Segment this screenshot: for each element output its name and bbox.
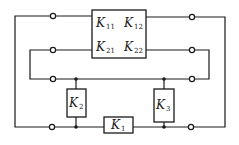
terminal-circle [189, 47, 194, 52]
terminal-circle [50, 47, 55, 52]
two-port-block: K11 K12 K21 K22 [92, 10, 146, 58]
terminal-circle [50, 13, 55, 18]
terminals-left [49, 13, 55, 129]
junction-dot [74, 125, 78, 129]
terminal-circle [50, 76, 55, 81]
terminal-circle [188, 124, 193, 129]
circuit-diagram: K11 K12 K21 K22 K2 K3 K1 [0, 0, 239, 145]
terminal-circle [189, 14, 194, 19]
element-k3: K3 [154, 89, 174, 122]
terminals-right [188, 14, 194, 129]
terminal-circle [49, 124, 54, 129]
junction-dot [162, 125, 166, 129]
element-k1: K1 [104, 117, 133, 133]
junction-dot [74, 77, 78, 81]
element-k2: K2 [67, 89, 86, 117]
junction-dot [162, 77, 166, 81]
terminal-circle [189, 76, 194, 81]
